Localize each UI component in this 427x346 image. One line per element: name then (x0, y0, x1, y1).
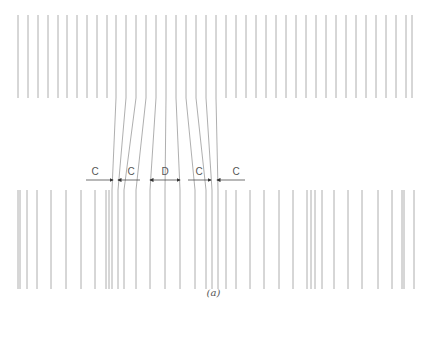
dimension-label: C (91, 166, 98, 177)
transition-line (186, 15, 195, 289)
transition-line (196, 15, 206, 289)
transition-line (112, 15, 116, 289)
transition-line (118, 15, 126, 289)
transition-line (206, 15, 212, 289)
transition-line (150, 15, 156, 289)
dimension-label: D (161, 166, 168, 177)
transition-line (165, 15, 166, 289)
grating-lines (18, 15, 414, 289)
transition-line (176, 15, 180, 289)
transition-line (216, 15, 218, 289)
dimension-label: C (127, 166, 134, 177)
dimension-label: C (232, 166, 239, 177)
figure-caption: (a) (0, 287, 427, 298)
transition-line (136, 15, 146, 289)
dimension-label: C (195, 166, 202, 177)
